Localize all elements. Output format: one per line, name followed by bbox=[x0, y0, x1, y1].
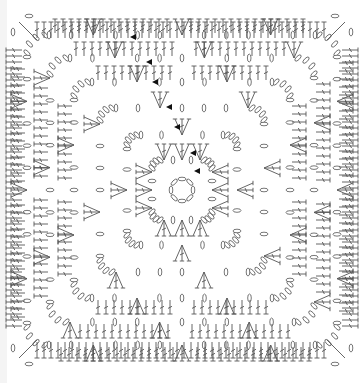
double-crochet-stitch bbox=[58, 120, 72, 125]
round-start-marker-icon bbox=[130, 34, 136, 40]
round-start-marker-icon bbox=[194, 168, 200, 174]
double-crochet-stitch bbox=[6, 264, 22, 269]
double-crochet-stitch bbox=[252, 22, 257, 38]
double-crochet-stitch bbox=[6, 90, 22, 95]
double-crochet-stitch bbox=[58, 176, 72, 181]
double-crochet-stitch bbox=[270, 324, 275, 338]
shell-cluster bbox=[237, 181, 253, 199]
chain-stitch bbox=[202, 104, 206, 112]
double-crochet-stitch bbox=[34, 278, 48, 283]
double-crochet-stitch bbox=[140, 342, 145, 358]
double-crochet-stitch bbox=[168, 22, 173, 38]
chain-stitch bbox=[70, 256, 78, 260]
chain-stitch bbox=[189, 156, 193, 164]
double-crochet-stitch bbox=[175, 342, 180, 358]
double-crochet-stitch bbox=[69, 19, 74, 33]
chain-stitch bbox=[286, 256, 294, 260]
double-crochet-stitch bbox=[264, 66, 269, 80]
double-crochet-stitch bbox=[96, 66, 101, 80]
double-crochet-stitch bbox=[208, 66, 213, 80]
chain-stitch bbox=[158, 78, 162, 86]
chain-stitch bbox=[270, 78, 274, 86]
chain-stitch bbox=[48, 62, 56, 70]
chain-stitch bbox=[180, 294, 184, 302]
chain-stitch bbox=[91, 318, 95, 326]
chain-stitch bbox=[23, 77, 31, 81]
chain-stitch bbox=[158, 294, 162, 302]
double-crochet-stitch bbox=[256, 66, 261, 80]
double-crochet-stitch bbox=[6, 102, 22, 107]
chain-stitch bbox=[114, 104, 118, 112]
double-crochet-stitch bbox=[316, 170, 330, 175]
double-crochet-stitch bbox=[58, 256, 72, 261]
chain-stitch bbox=[233, 168, 241, 172]
double-crochet-stitch bbox=[58, 160, 72, 165]
double-crochet-stitch bbox=[6, 96, 22, 101]
chain-stitch bbox=[180, 78, 184, 86]
shell-cluster bbox=[128, 66, 146, 82]
double-crochet-stitch bbox=[240, 66, 245, 80]
chain-stitch bbox=[333, 299, 341, 303]
shell-cluster bbox=[173, 245, 191, 261]
double-crochet-stitch bbox=[58, 128, 72, 133]
double-crochet-stitch bbox=[6, 84, 22, 89]
double-crochet-stitch bbox=[342, 324, 358, 329]
double-crochet-stitch bbox=[168, 300, 173, 314]
chain-stitch bbox=[270, 54, 274, 62]
double-crochet-stitch bbox=[34, 86, 48, 91]
double-crochet-stitch bbox=[34, 206, 48, 211]
chain-stitch bbox=[96, 232, 104, 236]
chain-stitch bbox=[333, 55, 341, 59]
chain-stitch bbox=[191, 186, 195, 194]
chain-stitch bbox=[333, 233, 341, 237]
double-crochet-stitch bbox=[139, 347, 144, 361]
double-crochet-stitch bbox=[342, 168, 358, 173]
chain-stitch bbox=[208, 179, 216, 183]
double-crochet-stitch bbox=[316, 226, 330, 231]
chain-stitch bbox=[286, 166, 294, 170]
double-crochet-stitch bbox=[342, 288, 358, 293]
chain-stitch bbox=[233, 229, 241, 233]
chain-stitch bbox=[70, 211, 78, 215]
chain-stitch bbox=[169, 186, 173, 194]
chain-stitch bbox=[54, 56, 62, 64]
shell-cluster bbox=[264, 159, 280, 177]
shell-cluster bbox=[84, 203, 100, 221]
double-crochet-stitch bbox=[6, 300, 22, 305]
double-crochet-stitch bbox=[307, 347, 312, 361]
double-crochet-stitch bbox=[316, 282, 330, 287]
chain-stitch bbox=[46, 121, 54, 125]
double-crochet-stitch bbox=[6, 66, 22, 71]
chain-stitch bbox=[203, 294, 207, 302]
double-crochet-stitch bbox=[122, 42, 127, 56]
chain-stitch bbox=[260, 232, 268, 236]
double-crochet-stitch bbox=[342, 264, 358, 269]
chain-stitch bbox=[221, 241, 225, 249]
double-crochet-stitch bbox=[316, 274, 330, 279]
chain-stitch bbox=[72, 287, 80, 295]
shell-cluster bbox=[173, 220, 191, 236]
chain-stitch bbox=[310, 166, 318, 170]
double-crochet-stitch bbox=[112, 66, 117, 80]
chain-stitch bbox=[208, 197, 216, 201]
double-crochet-stitch bbox=[237, 19, 242, 33]
double-crochet-stitch bbox=[104, 300, 109, 314]
double-crochet-stitch bbox=[291, 347, 296, 361]
double-crochet-stitch bbox=[6, 210, 22, 215]
double-crochet-stitch bbox=[342, 300, 358, 305]
round-start-marker-icon bbox=[152, 79, 158, 85]
double-crochet-stitch bbox=[342, 258, 358, 263]
double-crochet-stitch bbox=[292, 216, 306, 221]
double-crochet-stitch bbox=[138, 42, 143, 56]
double-crochet-stitch bbox=[155, 347, 160, 361]
double-crochet-stitch bbox=[342, 294, 358, 299]
chain-stitch bbox=[302, 316, 310, 324]
double-crochet-stitch bbox=[171, 347, 176, 361]
double-crochet-stitch bbox=[238, 342, 243, 358]
chain-stitch bbox=[70, 166, 78, 170]
double-crochet-stitch bbox=[316, 290, 330, 295]
chain-stitch bbox=[148, 179, 156, 183]
double-crochet-stitch bbox=[342, 150, 358, 155]
double-crochet-stitch bbox=[6, 180, 22, 185]
double-crochet-stitch bbox=[342, 102, 358, 107]
